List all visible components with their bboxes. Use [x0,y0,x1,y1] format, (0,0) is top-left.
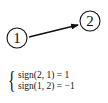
node-2: 2 [80,11,100,31]
node-1: 1 [7,28,27,48]
equation-line-1: sign(2, 1) = 1 [18,70,75,81]
edge-1-to-2-arrow [29,25,78,37]
equation-system: sign(2, 1) = 1 sign(1, 2) = −1 [18,70,75,92]
node-2-label: 2 [86,13,94,29]
node-1-label: 1 [13,30,21,46]
equation-brace: { [8,67,15,93]
graph-diagram: 1 2 [0,0,108,60]
equation-line-2: sign(1, 2) = −1 [18,81,75,92]
